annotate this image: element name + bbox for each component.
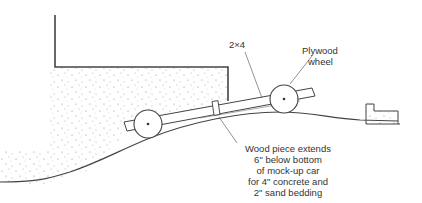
label-wood-5: 2" sand bedding xyxy=(238,188,338,198)
label-wood-4: for 4" concrete and xyxy=(238,177,338,187)
soil-fill xyxy=(0,68,228,185)
label-wood-2: 6" below bottom xyxy=(238,155,338,165)
label-wheel: wheel xyxy=(308,57,333,67)
label-plywood: Plywood xyxy=(302,46,338,56)
mockup-car-diagram xyxy=(0,0,422,203)
label-wood-1: Wood piece extends xyxy=(238,144,338,154)
curb xyxy=(366,104,398,124)
leader-wood xyxy=(219,117,237,143)
label-wood-3: of mock-up car xyxy=(238,166,338,176)
label-2x4: 2×4 xyxy=(229,40,245,50)
leader-beam xyxy=(245,52,262,98)
